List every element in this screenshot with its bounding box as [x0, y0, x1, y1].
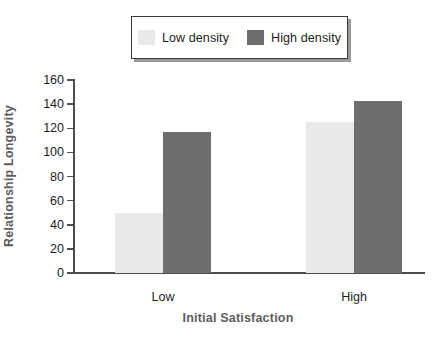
- legend-label-high-density: High density: [271, 31, 341, 45]
- x-axis-title: Initial Satisfaction: [73, 311, 403, 325]
- bar-low-low-density: [115, 213, 163, 273]
- bar-chart: Low density High density 020406080100120…: [0, 0, 439, 340]
- y-axis-tick-label: 80: [34, 170, 64, 184]
- low-density-swatch-icon: [138, 30, 155, 45]
- y-axis-title: Relationship Longevity: [2, 105, 16, 247]
- chart-legend: Low density High density: [131, 16, 348, 59]
- legend-item-low-density: Low density: [138, 30, 229, 45]
- legend-item-high-density: High density: [247, 30, 341, 45]
- y-axis-tick-label: 120: [34, 121, 64, 135]
- y-axis-tick-label: 0: [34, 266, 64, 280]
- y-axis-tick-label: 140: [34, 97, 64, 111]
- x-axis-label-low: Low: [152, 290, 175, 304]
- y-axis-tick-label: 40: [34, 218, 64, 232]
- y-axis-tick-label: 160: [34, 73, 64, 87]
- x-axis-label-high: High: [341, 290, 367, 304]
- bar-low-high-density: [163, 132, 211, 273]
- y-axis-tick-label: 60: [34, 194, 64, 208]
- high-density-swatch-icon: [247, 30, 264, 45]
- bar-high-low-density: [306, 122, 354, 273]
- bar-high-high-density: [354, 101, 402, 273]
- plot-area: [73, 80, 425, 273]
- y-axis-tick-labels: 020406080100120140160: [28, 0, 64, 340]
- y-axis-tick-label: 100: [34, 145, 64, 159]
- y-axis-tick-label: 20: [34, 242, 64, 256]
- legend-label-low-density: Low density: [162, 31, 229, 45]
